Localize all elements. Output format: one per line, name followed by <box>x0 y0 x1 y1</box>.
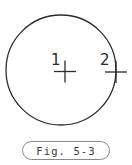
point-2-label: 2 <box>100 51 110 69</box>
figure-container: 1 2 Fig. 5-3 <box>0 0 132 165</box>
figure-caption: Fig. 5-3 <box>36 145 95 157</box>
figure-diagram: 1 2 Fig. 5-3 <box>0 0 132 165</box>
main-circle <box>6 15 116 125</box>
point-1-label: 1 <box>51 51 61 69</box>
